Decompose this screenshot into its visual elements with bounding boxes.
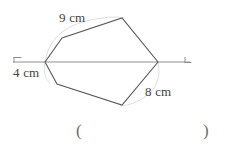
corner-mark-left-icon: [14, 58, 21, 63]
side-label-lower-right: 8 cm: [145, 85, 171, 98]
side-label-top: 9 cm: [59, 11, 85, 24]
answer-paren-open: (: [76, 122, 82, 139]
answer-paren-close: ): [203, 122, 209, 139]
geometry-figure: 9 cm 4 cm 8 cm ( ): [0, 0, 232, 148]
side-label-left: 4 cm: [13, 66, 39, 79]
